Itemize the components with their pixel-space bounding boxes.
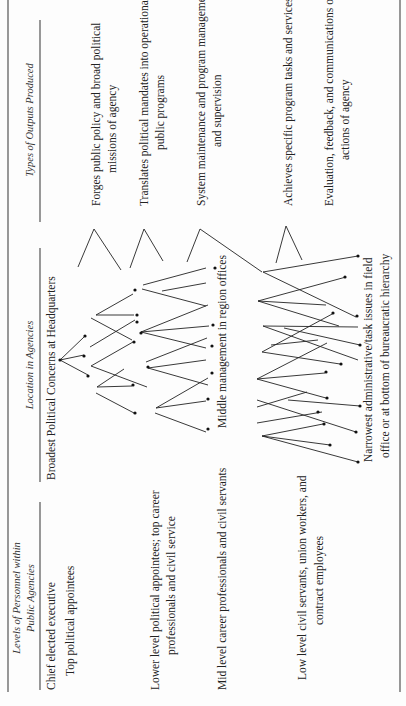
network-link [257, 379, 326, 398]
network-node-dot [213, 266, 216, 269]
network-node-dot [210, 344, 213, 347]
network-link [146, 338, 207, 362]
network-node-dot [133, 411, 136, 414]
network-link [162, 283, 206, 291]
output-brackets [78, 226, 302, 272]
location-field-1: Narrowest administrative/task issues in … [362, 257, 374, 462]
hierarchy-network [60, 256, 360, 462]
network-node-dot [133, 288, 136, 291]
network-link [156, 378, 208, 408]
network-link [156, 401, 206, 408]
outputs-header: Types of Outputs Produced [24, 63, 35, 177]
personnel-level-top-appointees: Top political appointees [64, 565, 77, 676]
network-link [271, 340, 318, 345]
network-link [141, 326, 209, 332]
output-evaluation-2: actions of agency [339, 79, 352, 160]
network-link [60, 337, 84, 360]
personnel-level-mid-career: Mid level career professionals and civil… [216, 467, 229, 690]
network-node-dot [324, 370, 327, 373]
network-node-dot [328, 443, 331, 446]
location-header: Location in Agencies [24, 321, 35, 410]
network-link [155, 413, 206, 432]
output-achieves-tasks: Achieves specific program tasks and serv… [282, 0, 295, 206]
network-node-dot [86, 374, 89, 377]
output-forges-policy-2: missions of agency [106, 85, 119, 173]
hierarchy-diagram: Types of Outputs Produced Location in Ag… [0, 0, 406, 706]
network-node-dot [206, 397, 209, 400]
network-link [262, 436, 358, 462]
network-link [263, 272, 356, 317]
network-link [148, 360, 206, 368]
network-link [60, 360, 88, 375]
location-headquarters: Broadest Political Concerns at Headquart… [45, 276, 58, 480]
network-link [262, 313, 334, 352]
network-link [91, 342, 133, 366]
network-link [148, 368, 208, 385]
network-node-dot [343, 275, 346, 278]
network-link [257, 392, 307, 407]
network-node-dot [339, 362, 342, 365]
location-region-offices: Middle management in region offices [216, 255, 229, 428]
network-node-dot [135, 313, 138, 316]
network-node-dot [83, 334, 86, 337]
network-link [262, 352, 340, 364]
personnel-level-low-civil-2: contract employees [313, 535, 326, 625]
personnel-header-line1: Levels of Personnel within [11, 542, 22, 655]
bracket-achieves [276, 226, 302, 263]
personnel-level-low-civil-1: Low level civil servants, union workers,… [296, 475, 309, 680]
network-link [97, 386, 132, 387]
network-node-dot [331, 311, 334, 314]
bracket-forges [78, 229, 121, 270]
personnel-level-lower-appointees-1: Lower level political appointees; top ca… [149, 490, 162, 690]
output-translates-mandates-1: Translates political mandates into opera… [138, 0, 151, 206]
output-evaluation-1: Evaluation, feedback, and communications… [323, 0, 336, 206]
output-forges-policy-1: Forges public policy and broad political [90, 23, 103, 206]
network-node-dot [132, 340, 135, 343]
network-node-dot [206, 427, 209, 430]
network-node-dot [210, 371, 213, 374]
network-link [142, 289, 206, 306]
network-node-dot [316, 410, 319, 413]
output-system-maintenance-1: System maintenance and program managemen… [195, 0, 208, 206]
output-system-maintenance-2: and supervision [211, 74, 224, 147]
network-link [96, 294, 133, 315]
network-node-dot [356, 460, 359, 463]
rotated-figure-page: Types of Outputs Produced Location in Ag… [0, 0, 406, 706]
network-link [91, 366, 147, 387]
network-link [262, 436, 330, 445]
output-translates-mandates-2: public programs [154, 74, 167, 150]
bracket-translates [130, 229, 163, 268]
personnel-level-chief-executive: Chief elected executive [45, 582, 57, 690]
network-node-dot [358, 404, 361, 407]
network-link [263, 326, 358, 360]
network-link [143, 268, 206, 285]
network-link [90, 320, 135, 347]
network-node-dot [146, 365, 149, 368]
network-node-dot [139, 331, 142, 334]
network-node-dot [82, 354, 85, 357]
network-link [141, 305, 208, 332]
network-link [258, 301, 339, 326]
personnel-header-line2: Public Agencies [25, 564, 36, 633]
network-node-dot [355, 314, 358, 317]
network-node-dot [322, 422, 325, 425]
network-node-dot [58, 358, 61, 361]
network-link [91, 318, 132, 340]
network-node-dot [358, 343, 361, 346]
location-field-2: office or at bottom of bureaucratic hier… [379, 254, 392, 458]
network-link [262, 424, 323, 436]
personnel-level-lower-appointees-2: professionals and civil service [165, 516, 178, 655]
network-node-dot [356, 254, 359, 257]
network-node-dot [325, 396, 328, 399]
network-node-dot [131, 383, 134, 386]
network-link [97, 369, 124, 387]
network-link [141, 332, 206, 348]
network-link [96, 393, 134, 413]
network-node-dot [354, 430, 357, 433]
network-node-dot [211, 323, 214, 326]
network-link [60, 355, 84, 360]
network-node-dot [135, 320, 138, 323]
network-link [258, 277, 346, 301]
network-link [288, 400, 360, 406]
